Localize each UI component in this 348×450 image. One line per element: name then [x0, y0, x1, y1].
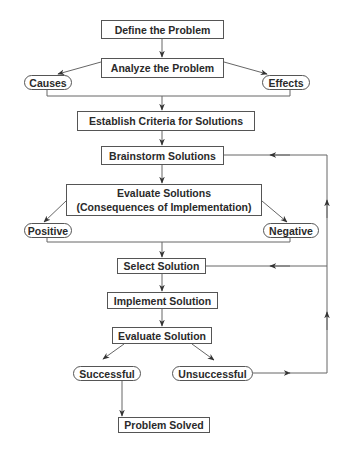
node-negative: Negative [263, 223, 319, 238]
bracket-positive-negative [47, 238, 290, 242]
node-label-line1: Evaluate Solutions [117, 186, 211, 200]
node-label: Implement Solution [114, 294, 211, 308]
node-select-solution: Select Solution [117, 258, 206, 274]
node-unsuccessful: Unsuccessful [172, 366, 253, 381]
node-label: Establish Criteria for Solutions [89, 114, 243, 128]
node-label: Evaluate Solution [118, 329, 206, 343]
node-brainstorm-solutions: Brainstorm Solutions [101, 146, 224, 165]
node-evaluate-solution: Evaluate Solution [112, 327, 212, 344]
node-analyze-problem: Analyze the Problem [101, 58, 224, 78]
flowchart-canvas: Define the Problem Analyze the Problem C… [0, 0, 348, 450]
node-label: Effects [268, 76, 303, 90]
node-label: Negative [269, 224, 313, 238]
node-label: Analyze the Problem [111, 61, 214, 75]
node-label: Problem Solved [124, 418, 203, 432]
node-label: Positive [28, 224, 68, 238]
node-implement-solution: Implement Solution [107, 292, 218, 309]
node-label-line2: (Consequences of Implementation) [76, 200, 251, 214]
arrow-analyze-causes [58, 62, 101, 74]
node-evaluate-solutions: Evaluate Solutions (Consequences of Impl… [66, 184, 262, 216]
node-label: Select Solution [124, 259, 200, 273]
arrow-evaluate-positive [44, 201, 66, 222]
node-successful: Successful [73, 366, 141, 381]
node-establish-criteria: Establish Criteria for Solutions [77, 111, 255, 131]
node-label: Causes [29, 76, 66, 90]
node-problem-solved: Problem Solved [118, 417, 210, 433]
node-label: Brainstorm Solutions [109, 149, 216, 163]
arrow-evaluate-successful [103, 344, 124, 359]
node-positive: Positive [24, 223, 72, 238]
bracket-causes-effects [47, 90, 290, 96]
node-effects: Effects [262, 75, 310, 90]
node-causes: Causes [24, 75, 72, 90]
arrow-analyze-effects [224, 62, 267, 74]
node-label: Define the Problem [115, 23, 211, 37]
arrow-evaluate-unsuccessful [192, 344, 214, 360]
node-label: Unsuccessful [178, 367, 246, 381]
node-define-problem: Define the Problem [101, 20, 224, 39]
node-label: Successful [79, 367, 134, 381]
arrow-evaluate-negative [262, 201, 287, 222]
